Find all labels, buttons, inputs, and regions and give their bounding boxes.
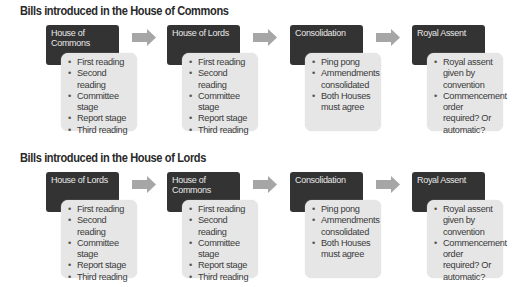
stage-body: First reading Second reading Committee s… bbox=[61, 53, 137, 131]
list-item: Report stage bbox=[67, 260, 133, 271]
list-item: Royal assent given by convention bbox=[433, 57, 499, 91]
arrow-right-icon bbox=[376, 29, 400, 46]
list-item: Committee stage bbox=[188, 91, 254, 114]
section-commons-bills: Bills introduced in the House of Commons… bbox=[0, 0, 517, 145]
stage-body: First reading Second reading Committee s… bbox=[182, 200, 258, 278]
section-lords-bills: Bills introduced in the House of Lords H… bbox=[0, 147, 517, 287]
stage-house-of-commons: House of Commons First reading Second re… bbox=[46, 25, 176, 135]
list-item: Committee stage bbox=[188, 238, 254, 261]
list-item: Committee stage bbox=[67, 238, 133, 261]
stage-body: Ping pong Ammendments consolidated Both … bbox=[305, 53, 381, 131]
stage-house-of-lords: House of Lords First reading Second read… bbox=[167, 25, 297, 135]
list-item: Third reading bbox=[188, 272, 254, 283]
list-item: Commencement order required? Or automati… bbox=[433, 238, 499, 283]
list-item: Report stage bbox=[188, 260, 254, 271]
list-item: First reading bbox=[188, 204, 254, 215]
list-item: Second reading bbox=[67, 215, 133, 238]
list-item: Second reading bbox=[67, 68, 133, 91]
list-item: Third reading bbox=[67, 125, 133, 136]
stage-body: First reading Second reading Committee s… bbox=[61, 200, 137, 278]
list-item: Second reading bbox=[188, 215, 254, 238]
list-item: Royal assent given by convention bbox=[433, 204, 499, 238]
list-item: Ammendments consolidated bbox=[311, 68, 377, 91]
stage-house-of-commons: House of Commons First reading Second re… bbox=[167, 172, 297, 282]
list-item: Ping pong bbox=[311, 57, 377, 68]
arrow-right-icon bbox=[132, 29, 156, 46]
stage-body: Royal assent given by convention Commenc… bbox=[427, 53, 503, 131]
list-item: Both Houses must agree bbox=[311, 91, 377, 114]
arrow-right-icon bbox=[132, 176, 156, 193]
arrow-right-icon bbox=[253, 176, 277, 193]
arrow-right-icon bbox=[253, 29, 277, 46]
stage-consolidation: Consolidation Ping pong Ammendments cons… bbox=[290, 172, 420, 282]
list-item: Report stage bbox=[188, 113, 254, 124]
arrow-right-icon bbox=[376, 176, 400, 193]
list-item: Second reading bbox=[188, 68, 254, 91]
list-item: Ammendments consolidated bbox=[311, 215, 377, 238]
stage-royal-assent: Royal Assent Royal assent given by conve… bbox=[412, 172, 517, 282]
stage-royal-assent: Royal Assent Royal assent given by conve… bbox=[412, 25, 517, 135]
stage-body: First reading Second reading Committee s… bbox=[182, 53, 258, 131]
list-item: Third reading bbox=[67, 272, 133, 283]
section-title: Bills introduced in the House of Commons bbox=[20, 4, 229, 18]
list-item: First reading bbox=[67, 57, 133, 68]
list-item: Commencement order required? Or automati… bbox=[433, 91, 499, 136]
list-item: Both Houses must agree bbox=[311, 238, 377, 261]
list-item: First reading bbox=[188, 57, 254, 68]
stage-consolidation: Consolidation Ping pong Ammendments cons… bbox=[290, 25, 420, 135]
list-item: First reading bbox=[67, 204, 133, 215]
stage-house-of-lords: House of Lords First reading Second read… bbox=[46, 172, 176, 282]
list-item: Ping pong bbox=[311, 204, 377, 215]
list-item: Third reading bbox=[188, 125, 254, 136]
list-item: Committee stage bbox=[67, 91, 133, 114]
section-title: Bills introduced in the House of Lords bbox=[20, 151, 206, 165]
stage-body: Ping pong Ammendments consolidated Both … bbox=[305, 200, 381, 278]
list-item: Report stage bbox=[67, 113, 133, 124]
stage-body: Royal assent given by convention Commenc… bbox=[427, 200, 503, 278]
